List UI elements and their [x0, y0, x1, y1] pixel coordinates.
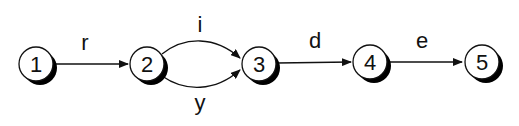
- edge-label-i: i: [198, 12, 203, 37]
- node-2: 2: [130, 47, 168, 85]
- node-1: 1: [19, 47, 57, 85]
- edge-label-r: r: [81, 30, 88, 55]
- edge-2-3-i: [162, 41, 240, 58]
- node-label-1: 1: [30, 52, 42, 77]
- diagram-canvas: r i y d e 1 2 3 4 5: [0, 0, 519, 126]
- node-label-3: 3: [253, 52, 265, 77]
- edge-label-y: y: [195, 90, 206, 115]
- node-4: 4: [353, 45, 391, 83]
- node-label-2: 2: [141, 52, 153, 77]
- node-3: 3: [242, 47, 280, 85]
- edge-label-d: d: [309, 28, 321, 53]
- node-5: 5: [465, 45, 503, 83]
- edge-label-e: e: [416, 28, 428, 53]
- node-label-4: 4: [364, 50, 376, 75]
- edge-2-3-y: [162, 70, 240, 87]
- edge-3-4: [277, 62, 351, 63]
- node-label-5: 5: [476, 50, 488, 75]
